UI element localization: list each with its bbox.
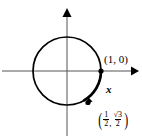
point-dot-1-0 <box>98 68 103 73</box>
label-arc-length-x: x <box>106 84 112 95</box>
coords-open-paren: ( <box>98 112 102 128</box>
coords-second-numerator: √3 <box>113 111 123 119</box>
coords-second-fraction: √3 2 <box>113 111 123 129</box>
point-dot-terminal <box>85 100 90 105</box>
x-axis-arrowhead <box>131 67 139 76</box>
coords-close-paren: ) <box>124 112 128 128</box>
arc-highlight <box>84 71 101 100</box>
label-terminal-point-coords: ( 1 2 , √3 2 ) <box>97 111 129 129</box>
label-point-1-0: (1, 0) <box>104 54 128 65</box>
y-axis-arrowhead <box>63 8 72 17</box>
coords-second-denominator: 2 <box>115 119 121 128</box>
unit-circle-figure: (1, 0) x ( 1 2 , √3 2 ) <box>0 0 142 140</box>
